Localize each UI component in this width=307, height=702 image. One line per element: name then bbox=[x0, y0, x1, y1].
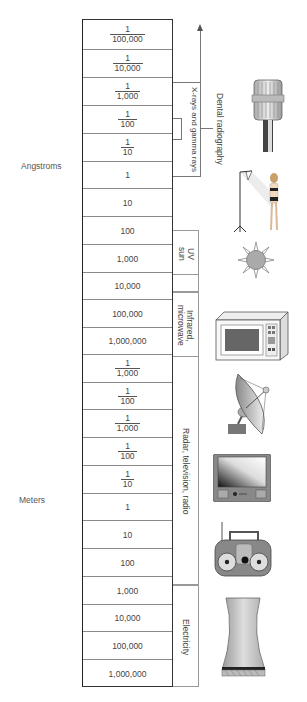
scale-row: 11,000 bbox=[83, 77, 172, 105]
infrared-band: Infrared,microwave bbox=[173, 292, 199, 357]
scale-row: 10,000 bbox=[83, 272, 172, 299]
xray-arrow-line bbox=[200, 28, 201, 177]
scale-row: 1 bbox=[83, 493, 172, 520]
scale-row: 1,000,000 bbox=[83, 327, 172, 354]
scale-row: 1,000,000 bbox=[83, 659, 172, 688]
denominator: 10,000 bbox=[113, 63, 143, 73]
radar-band-label: Radar, television, radio bbox=[181, 357, 191, 585]
scale-row: 100 bbox=[83, 216, 172, 244]
scale-value: 1 bbox=[125, 502, 130, 512]
scale-value: 1,000,000 bbox=[109, 669, 147, 679]
scale-row: 10 bbox=[83, 520, 172, 548]
dental-pointer-line bbox=[201, 128, 213, 129]
fraction-value: 110 bbox=[121, 138, 134, 157]
fraction-value: 1100 bbox=[118, 442, 136, 461]
dental-bracket-top bbox=[173, 118, 181, 119]
scale-value: 10 bbox=[123, 530, 132, 540]
scale-row: 10,000 bbox=[83, 604, 172, 631]
dental-bracket-side bbox=[181, 118, 182, 140]
scale-row: 1100,000 bbox=[83, 20, 172, 49]
fraction-value: 110 bbox=[121, 470, 134, 489]
scale-row: 1100 bbox=[83, 105, 172, 133]
fraction-value: 1100 bbox=[118, 387, 136, 406]
radar-band: Radar, television, radio bbox=[173, 357, 199, 585]
denominator: 10 bbox=[121, 147, 134, 157]
wavelength-scale-table: 1100,000110,00011,00011001101101001,0001… bbox=[82, 19, 173, 687]
scale-row: 1,000 bbox=[83, 244, 172, 272]
scale-row: 100 bbox=[83, 548, 172, 576]
scale-row: 11,000 bbox=[83, 354, 172, 382]
fraction-value: 11,000 bbox=[115, 359, 140, 378]
microwave-oven-icon bbox=[214, 310, 290, 362]
numerator: 1 bbox=[123, 470, 132, 479]
scale-row: 1100 bbox=[83, 437, 172, 465]
numerator: 1 bbox=[123, 387, 132, 396]
angstroms-label: Angstroms bbox=[21, 161, 62, 171]
sun-icon bbox=[238, 242, 274, 278]
scale-row: 10 bbox=[83, 188, 172, 216]
scale-value: 100 bbox=[120, 558, 134, 568]
numerator: 1 bbox=[123, 442, 132, 451]
infrared-band-label: Infrared,microwave bbox=[176, 293, 194, 358]
cooling-tower-icon bbox=[221, 596, 267, 678]
uv-band: UVsun bbox=[173, 230, 199, 275]
scale-value: 1,000,000 bbox=[109, 336, 147, 346]
scale-value: 1,000 bbox=[117, 254, 138, 264]
numerator: 1 bbox=[123, 414, 132, 423]
scale-value: 10,000 bbox=[115, 613, 141, 623]
denominator: 1,000 bbox=[115, 423, 140, 433]
scale-row: 110 bbox=[83, 465, 172, 493]
scale-row: 1100 bbox=[83, 382, 172, 409]
numerator: 1 bbox=[123, 25, 132, 34]
electricity-band: Electricity bbox=[173, 585, 199, 687]
numerator: 1 bbox=[123, 54, 132, 63]
denominator: 1,000 bbox=[115, 368, 140, 378]
television-icon bbox=[213, 454, 271, 502]
denominator: 100,000 bbox=[110, 34, 145, 44]
scale-value: 100,000 bbox=[112, 309, 143, 319]
numerator: 1 bbox=[123, 110, 132, 119]
fraction-value: 110,000 bbox=[113, 54, 143, 73]
dental-xray-tube-icon bbox=[250, 78, 286, 154]
electricity-band-label: Electricity bbox=[181, 586, 191, 688]
scale-row: 11,000 bbox=[83, 409, 172, 437]
fraction-value: 1100 bbox=[118, 110, 136, 129]
satellite-dish-icon bbox=[228, 372, 274, 436]
dental-bracket-bottom bbox=[173, 139, 181, 140]
scale-row: 110,000 bbox=[83, 49, 172, 77]
arrow-up-icon bbox=[197, 24, 203, 31]
scale-row: 110 bbox=[83, 133, 172, 161]
dental-radiography-label: Dental radiography bbox=[215, 88, 225, 170]
scale-value: 1 bbox=[125, 170, 130, 180]
numerator: 1 bbox=[123, 359, 132, 368]
meters-label: Meters bbox=[19, 495, 45, 505]
fraction-value: 11,000 bbox=[115, 414, 140, 433]
scale-row: 1 bbox=[83, 161, 172, 188]
scale-row: 100,000 bbox=[83, 631, 172, 659]
denominator: 1,000 bbox=[115, 91, 140, 101]
scale-row: 100,000 bbox=[83, 299, 172, 327]
scale-value: 10 bbox=[123, 198, 132, 208]
xray-band-label: X-rays and gamma rays bbox=[189, 82, 199, 177]
scale-value: 10,000 bbox=[115, 281, 141, 291]
denominator: 10 bbox=[121, 479, 134, 489]
fraction-value: 11,000 bbox=[115, 82, 140, 101]
denominator: 100 bbox=[118, 396, 136, 406]
denominator: 100 bbox=[118, 451, 136, 461]
denominator: 100 bbox=[118, 119, 136, 129]
boombox-radio-icon bbox=[214, 522, 272, 578]
photo-lamp-model-icon bbox=[232, 168, 288, 234]
scale-value: 100 bbox=[120, 226, 134, 236]
numerator: 1 bbox=[123, 138, 132, 147]
scale-row: 1,000 bbox=[83, 576, 172, 604]
scale-value: 1,000 bbox=[117, 586, 138, 596]
gap-band bbox=[173, 275, 199, 292]
scale-value: 100,000 bbox=[112, 641, 143, 651]
numerator: 1 bbox=[123, 82, 132, 91]
uv-band-label: UVsun bbox=[177, 231, 195, 276]
fraction-value: 1100,000 bbox=[110, 25, 145, 44]
